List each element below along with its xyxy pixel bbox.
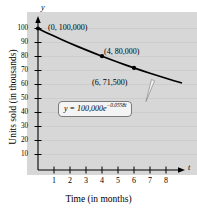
y-axis-variable-label: y (41, 4, 45, 12)
callout-leader-line (146, 80, 155, 102)
point-label-6: (6, 71,500) (92, 79, 127, 87)
x-tick-label-6: 6 (128, 177, 140, 185)
equation-callout: y = 100,000e−0.0558t (58, 101, 132, 117)
y-axis-title: Units sold (in thousands) (8, 22, 18, 172)
x-axis-variable-label: t (188, 164, 190, 172)
data-point-0 (36, 26, 40, 30)
exponential-decay-chart: 100 90 80 70 60 50 40 30 20 10 1 2 3 4 5… (0, 0, 197, 215)
data-point-6 (132, 66, 136, 70)
x-tick-label-7: 7 (144, 177, 156, 185)
x-axis-arrowhead (178, 167, 185, 172)
point-label-4: (4, 80,000) (104, 48, 139, 56)
equation-exponent: −0.0558t (107, 102, 127, 108)
x-tick-label-4: 4 (96, 177, 108, 185)
point-label-0: (0, 100,000) (48, 24, 87, 32)
x-tick-label-8: 8 (160, 177, 172, 185)
x-axis-title: Time (in months) (0, 194, 197, 204)
x-tick-label-5: 5 (112, 177, 124, 185)
equation-text: y = 100,000e (64, 104, 107, 113)
x-tick-label-2: 2 (64, 177, 76, 185)
x-tick-label-1: 1 (48, 177, 60, 185)
y-axis-arrowhead (35, 16, 40, 23)
x-tick-label-3: 3 (80, 177, 92, 185)
